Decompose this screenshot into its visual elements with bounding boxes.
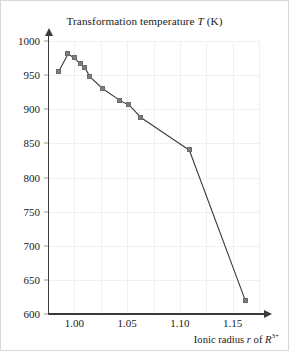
data-point-marker xyxy=(72,55,77,60)
y-tick-label: 600 xyxy=(0,308,40,320)
chart-figure: Transformation temperature T (K) Ionic r… xyxy=(0,0,289,351)
gridline-vertical xyxy=(180,41,181,314)
x-tick-label: 1.05 xyxy=(107,317,147,329)
gridline-vertical xyxy=(74,41,75,314)
data-point-marker xyxy=(243,298,248,303)
data-point-marker xyxy=(100,86,105,91)
y-tick-label: 650 xyxy=(0,274,40,286)
data-point-marker xyxy=(87,74,92,79)
x-tick-label: 1.00 xyxy=(54,317,94,329)
gridline-vertical-minor xyxy=(206,41,207,314)
y-tick-mark xyxy=(44,177,48,178)
y-tick-label: 750 xyxy=(0,206,40,218)
data-point-marker xyxy=(126,102,131,107)
y-tick-label: 900 xyxy=(0,103,40,115)
y-tick-mark xyxy=(44,41,48,42)
y-tick-label: 850 xyxy=(0,137,40,149)
gridline-vertical-minor xyxy=(154,41,155,314)
x-tick-label: 1.10 xyxy=(160,317,200,329)
plot-area xyxy=(48,41,259,314)
x-axis-arrow-icon xyxy=(264,310,272,318)
y-tick-label: 800 xyxy=(0,172,40,184)
x-axis-label: Ionic radius r of R3+ xyxy=(194,332,279,345)
y-tick-mark xyxy=(44,211,48,212)
data-point-marker xyxy=(56,69,61,74)
y-tick-mark xyxy=(44,75,48,76)
chart-title-symbol: T xyxy=(197,15,203,27)
y-tick-mark xyxy=(44,143,48,144)
y-tick-label: 1000 xyxy=(0,35,40,47)
chart-title-text: Transformation temperature xyxy=(67,15,195,27)
data-point-marker xyxy=(82,65,87,70)
y-tick-label: 950 xyxy=(0,69,40,81)
data-point-marker xyxy=(187,147,192,152)
x-axis-label-mid: of xyxy=(251,334,265,345)
chart-title-unit: (K) xyxy=(207,15,223,27)
y-tick-mark xyxy=(44,245,48,246)
gridline-vertical xyxy=(127,41,128,314)
y-axis-line xyxy=(48,35,49,314)
data-point-marker xyxy=(65,51,70,56)
data-point-marker xyxy=(138,115,143,120)
y-tick-mark xyxy=(44,109,48,110)
x-axis-line xyxy=(48,313,265,314)
x-axis-label-prefix: Ionic radius xyxy=(194,334,247,345)
gridline-vertical xyxy=(233,41,234,314)
x-axis-label-superscript: 3+ xyxy=(272,332,279,340)
x-tick-label: 1.15 xyxy=(213,317,253,329)
data-point-marker xyxy=(117,98,122,103)
chart-title: Transformation temperature T (K) xyxy=(1,15,288,27)
y-tick-label: 700 xyxy=(0,240,40,252)
gridline-vertical-minor xyxy=(259,41,260,314)
y-tick-mark xyxy=(44,314,48,315)
y-tick-mark xyxy=(44,279,48,280)
gridline-vertical-minor xyxy=(101,41,102,314)
y-axis-arrow-icon xyxy=(45,28,53,36)
